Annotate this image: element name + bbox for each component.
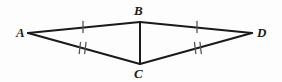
vertex-label-d: D — [257, 26, 266, 39]
vertex-label-c: C — [134, 67, 143, 80]
vertex-label-a: A — [16, 26, 25, 39]
geometry-figure: A B C D — [0, 0, 282, 82]
segment-cd — [140, 33, 252, 64]
vertex-label-b: B — [134, 4, 143, 17]
segment-ac — [28, 33, 140, 64]
segment-bd — [140, 22, 252, 33]
segment-ab — [28, 22, 140, 33]
